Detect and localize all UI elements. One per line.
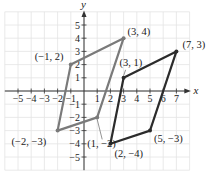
y-tick-label: 1 [75,72,80,83]
y-tick-label: 4 [75,33,80,44]
x-tick-label: 5 [148,93,153,104]
point-label: (−1, 2) [35,51,64,63]
vertex-point [174,49,178,53]
vertex-point [69,63,73,67]
vertex-point [95,115,99,119]
point-label: (3, 4) [128,26,151,38]
x-tick-label: −5 [13,93,24,104]
y-tick-label: 3 [75,46,80,57]
point-label: (7, 3) [182,39,205,51]
y-tick-label: −4 [69,138,80,149]
y-tick-label: −5 [69,152,80,163]
x-tick-label: −3 [39,93,50,104]
point-label: (2, −4) [114,148,143,160]
x-tick-label: 4 [134,93,139,104]
point-label: (1, −2) [87,138,116,150]
point-label: (−2, −3) [12,136,47,148]
point-label: (5, −3) [154,133,183,145]
y-tick-label: 5 [75,20,80,31]
y-axis-label: y [80,0,86,10]
y-tick-label: −2 [69,112,80,123]
x-tick-label: 3 [121,93,126,104]
vertex-point [148,129,152,133]
x-axis-label: x [193,84,199,96]
point-label: (3, 1) [120,57,143,69]
x-tick-label: 2 [108,93,113,104]
x-tick-label: 1 [95,93,100,104]
y-tick-label: −1 [69,99,80,110]
parallelogram-1 [58,38,124,130]
vertex-point [122,76,126,80]
vertex-point [122,36,126,40]
x-tick-label: −4 [26,93,37,104]
x-tick-label: −2 [52,93,63,104]
coordinate-plane: xy −5−4−3−2−11234567−5−4−3−2−112345 (−1,… [0,0,207,176]
vertex-point [56,129,60,133]
label-leader-line [97,119,102,139]
x-tick-label: 7 [174,93,179,104]
